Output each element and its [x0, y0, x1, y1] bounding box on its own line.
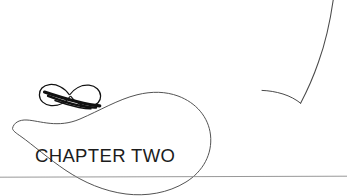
- page-title: CHAPTER TWO: [35, 147, 175, 166]
- infinity-flourish-ornament: [39, 84, 100, 108]
- chapter-decoration-artwork: [0, 0, 347, 196]
- corner-hook-curve: [262, 0, 334, 103]
- chapter-opening-page: CHAPTER TWO: [0, 0, 347, 196]
- teardrop-swash-curve: [13, 92, 211, 195]
- horizontal-rule: [0, 176, 347, 177]
